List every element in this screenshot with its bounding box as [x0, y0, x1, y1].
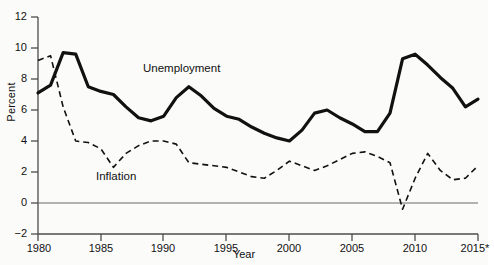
y-tick-label-10: 10: [1, 42, 27, 53]
x-axis-title: Year: [0, 248, 488, 260]
series-line-inflation: [38, 56, 478, 209]
y-tick-label-12: 12: [1, 11, 27, 22]
x-axis-ticks: [38, 234, 478, 241]
y-tick-label-2: 2: [1, 166, 27, 177]
axis-lines: [38, 17, 478, 234]
y-tick-label-0: 0: [1, 197, 27, 208]
series-label-inflation: Inflation: [96, 170, 136, 182]
series-label-unemployment: Unemployment: [143, 62, 220, 74]
y-tick-label-neg2: −2: [1, 228, 27, 239]
y-axis-ticks: [31, 17, 38, 234]
y-axis-title: Percent: [5, 67, 17, 137]
series-line-unemployment: [38, 53, 478, 141]
